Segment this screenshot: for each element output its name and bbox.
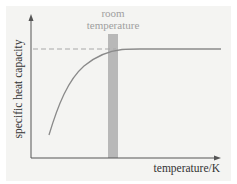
x-axis-arrow-icon: [214, 156, 221, 161]
band-label-line2: temperature: [87, 19, 140, 31]
band-label-line1: room: [101, 7, 125, 19]
chart-figure: room temperature temperature/K specific …: [0, 0, 237, 184]
x-axis-label: temperature/K: [154, 162, 221, 175]
y-axis-arrow-icon: [29, 14, 34, 21]
heat-capacity-curve: [49, 49, 221, 135]
y-axis-label: specific heat capacity: [12, 39, 25, 138]
chart-svg: room temperature temperature/K specific …: [0, 0, 237, 184]
